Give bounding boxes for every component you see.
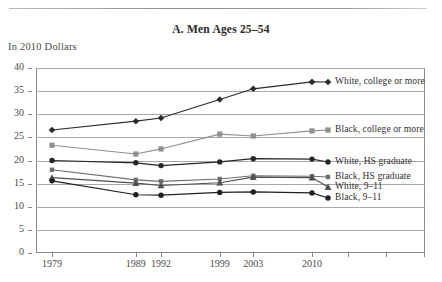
x-tick-mark bbox=[424, 253, 425, 257]
x-tick-label: 1992 bbox=[141, 258, 181, 269]
x-tick-mark bbox=[253, 253, 254, 257]
y-tick-label: 5 bbox=[0, 223, 24, 234]
data-point-marker bbox=[325, 195, 330, 200]
data-point-marker bbox=[251, 133, 256, 138]
series-label-1: White, college or more bbox=[335, 76, 425, 86]
series-label-2: Black, college or more bbox=[335, 124, 424, 134]
series-line bbox=[52, 177, 312, 185]
y-tick-mark bbox=[28, 137, 32, 138]
header-divider bbox=[9, 8, 427, 9]
plot-area: 0510152025303540 19791989199219992003201… bbox=[36, 68, 425, 253]
series-line bbox=[52, 82, 312, 130]
series-label-4: Black, HS graduate bbox=[335, 171, 411, 181]
data-point-marker bbox=[325, 79, 332, 86]
y-tick-mark bbox=[28, 207, 32, 208]
data-point-marker bbox=[133, 118, 140, 125]
series-leader-line bbox=[312, 176, 328, 177]
data-point-marker bbox=[309, 190, 314, 195]
x-tick-mark bbox=[348, 253, 349, 257]
data-point-marker bbox=[325, 159, 330, 164]
data-point-marker bbox=[216, 96, 223, 103]
y-tick-label: 0 bbox=[0, 246, 24, 257]
x-tick-label: 2003 bbox=[233, 258, 273, 269]
data-point-marker bbox=[309, 156, 314, 161]
data-point-marker bbox=[133, 151, 138, 156]
series-line bbox=[52, 170, 312, 182]
units-label: In 2010 Dollars bbox=[8, 41, 77, 52]
y-tick-label: 20 bbox=[0, 154, 24, 165]
x-tick-mark bbox=[161, 253, 162, 257]
x-tick-mark bbox=[220, 253, 221, 257]
y-tick-mark bbox=[28, 184, 32, 185]
y-tick-label: 30 bbox=[0, 107, 24, 118]
y-tick-mark bbox=[28, 230, 32, 231]
y-tick-mark bbox=[28, 253, 32, 254]
chart-figure: A. Men Ages 25–54 In 2010 Dollars 051015… bbox=[0, 0, 442, 282]
y-tick-label: 40 bbox=[0, 61, 24, 72]
series-label-6: Black, 9–11 bbox=[335, 192, 382, 202]
data-point-marker bbox=[50, 168, 54, 172]
page-title: A. Men Ages 25–54 bbox=[0, 23, 442, 35]
data-point-marker bbox=[158, 192, 163, 197]
data-point-marker bbox=[217, 190, 222, 195]
data-point-marker bbox=[326, 175, 330, 179]
x-tick-mark bbox=[386, 253, 387, 257]
x-tick-mark bbox=[136, 253, 137, 257]
data-point-marker bbox=[158, 146, 163, 151]
y-tick-label: 25 bbox=[0, 130, 24, 141]
data-point-marker bbox=[250, 86, 257, 93]
data-point-marker bbox=[49, 158, 54, 163]
data-point-marker bbox=[158, 163, 163, 168]
data-point-marker bbox=[158, 115, 165, 122]
x-tick-mark bbox=[312, 253, 313, 257]
y-tick-mark bbox=[28, 161, 32, 162]
series-line bbox=[52, 131, 312, 154]
y-tick-label: 10 bbox=[0, 200, 24, 211]
data-point-marker bbox=[325, 127, 330, 132]
series-line bbox=[52, 181, 312, 195]
series-label-3: White, HS graduate bbox=[335, 156, 412, 166]
data-point-marker bbox=[49, 143, 54, 148]
series-label-5: White, 9–11 bbox=[335, 181, 383, 191]
data-point-marker bbox=[217, 132, 222, 137]
data-point-marker bbox=[309, 128, 314, 133]
data-point-marker bbox=[325, 184, 332, 190]
series-line bbox=[52, 159, 312, 166]
data-point-marker bbox=[133, 160, 138, 165]
data-point-marker bbox=[217, 159, 222, 164]
y-tick-mark bbox=[28, 91, 32, 92]
data-point-marker bbox=[133, 192, 138, 197]
data-point-marker bbox=[251, 189, 256, 194]
y-tick-mark bbox=[28, 68, 32, 69]
x-tick-label: 1979 bbox=[32, 258, 72, 269]
y-tick-mark bbox=[28, 114, 32, 115]
data-point-marker bbox=[49, 127, 56, 134]
x-tick-mark bbox=[52, 253, 53, 257]
data-point-marker bbox=[251, 156, 256, 161]
x-tick-label: 2010 bbox=[292, 258, 332, 269]
y-tick-label: 35 bbox=[0, 84, 24, 95]
data-point-marker bbox=[309, 79, 316, 86]
y-axis-ticks: 0510152025303540 bbox=[4, 68, 32, 253]
data-point-marker bbox=[49, 178, 54, 183]
y-tick-label: 15 bbox=[0, 177, 24, 188]
